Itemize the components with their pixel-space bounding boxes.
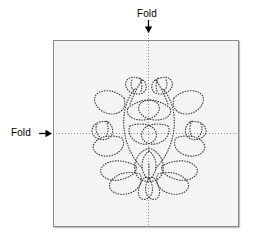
fold-pattern-diagram: Fold Fold xyxy=(0,0,254,237)
side-tulip-bud-right xyxy=(185,121,206,140)
lower-petals-left xyxy=(101,161,153,199)
fold-arrow-right-icon xyxy=(39,128,52,139)
floral-wreath-motif xyxy=(80,64,218,200)
fold-arrow-down-icon xyxy=(143,20,154,33)
left-stem-foliage xyxy=(93,80,159,168)
fold-label-top: Fold xyxy=(137,8,157,19)
side-tulip-bud-left xyxy=(92,121,113,140)
fold-label-left: Fold xyxy=(11,127,31,138)
right-stem-foliage xyxy=(139,80,205,168)
center-flower xyxy=(135,148,164,182)
lower-petals-right xyxy=(146,161,198,199)
